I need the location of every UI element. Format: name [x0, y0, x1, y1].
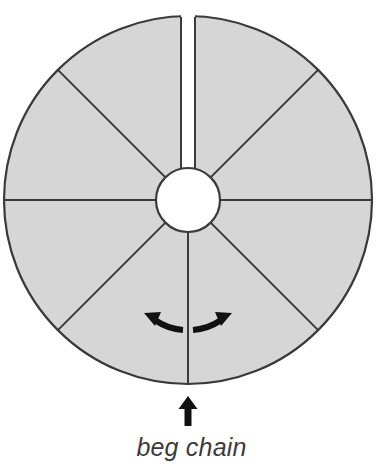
slit-edges — [181, 17, 195, 186]
round-motif-diagram — [0, 0, 383, 469]
center-hub — [156, 168, 220, 232]
beg-chain-pointer-arrow — [179, 396, 198, 426]
caption-beg-chain: beg chain — [0, 432, 383, 462]
up-arrow-head — [179, 396, 198, 409]
diagram-canvas: beg chain — [0, 0, 383, 469]
